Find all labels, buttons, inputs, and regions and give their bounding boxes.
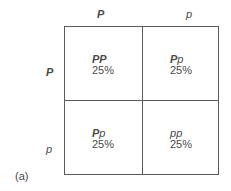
cell-Pp-top: Pp 25% [170, 54, 192, 76]
cell-Pp-bottom: Pp 25% [92, 128, 114, 150]
row-header-dominant: P [46, 66, 53, 78]
column-header-dominant: P [97, 8, 104, 20]
cell-PP: PP 25% [92, 54, 114, 76]
row-header-recessive: p [46, 143, 52, 155]
percent: 25% [92, 139, 114, 150]
cell-pp: pp 25% [170, 128, 192, 150]
percent: 25% [92, 65, 114, 76]
punnett-square: PP 25% Pp 25% Pp 25% pp 25% [64, 26, 219, 175]
horizontal-divider [65, 100, 218, 101]
panel-label: (a) [15, 170, 28, 182]
column-header-recessive: p [186, 8, 192, 20]
percent: 25% [170, 65, 192, 76]
percent: 25% [170, 139, 192, 150]
